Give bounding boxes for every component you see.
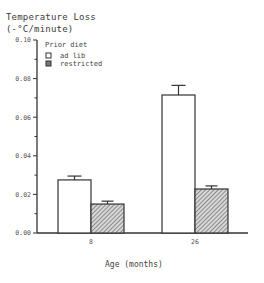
y-tick-label: 0.00 bbox=[15, 229, 31, 237]
bar-chart: 0.000.020.040.060.080.10 826 Prior dieta… bbox=[0, 0, 264, 283]
legend: Prior dietad librestricted bbox=[45, 41, 102, 68]
bar-ad-lib-26 bbox=[162, 95, 195, 233]
x-axis-ticks: 826 bbox=[89, 238, 199, 246]
x-axis-label: Age (months) bbox=[105, 260, 163, 269]
legend-swatch-restricted bbox=[46, 61, 51, 66]
y-tick-label: 0.02 bbox=[15, 191, 31, 199]
legend-label-restricted: restricted bbox=[60, 60, 102, 68]
y-tick-label: 0.10 bbox=[15, 36, 31, 44]
bar-restricted-8 bbox=[91, 204, 124, 233]
legend-label-ad-lib: ad lib bbox=[60, 52, 85, 60]
legend-title: Prior diet bbox=[45, 41, 87, 49]
y-tick-label: 0.08 bbox=[15, 75, 31, 83]
x-tick-label: 8 bbox=[89, 238, 93, 246]
legend-swatch-ad-lib bbox=[46, 53, 51, 58]
bar-restricted-26 bbox=[195, 189, 228, 233]
bar-ad-lib-8 bbox=[58, 180, 91, 233]
y-tick-label: 0.06 bbox=[15, 114, 31, 122]
y-axis-ticks: 0.000.020.040.060.080.10 bbox=[15, 36, 37, 237]
bars bbox=[58, 85, 228, 233]
x-tick-label: 26 bbox=[191, 238, 199, 246]
y-tick-label: 0.04 bbox=[15, 152, 31, 160]
